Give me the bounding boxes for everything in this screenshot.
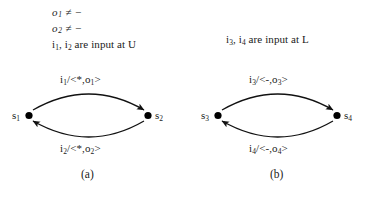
edge-a-bottom-output: <*,o <box>70 142 90 154</box>
edge-b-bottom-output: <-,o <box>259 142 278 154</box>
node-s2-subscript: 2 <box>159 114 163 123</box>
graph-layer <box>0 0 371 198</box>
node-s4-subscript: 4 <box>348 114 352 123</box>
edge-b-top-output-close: > <box>282 73 288 85</box>
caption-b: (b) <box>270 168 283 180</box>
node-s1-subscript: 1 <box>16 114 20 123</box>
caption-a: (a) <box>81 168 94 180</box>
diagram-b-edges <box>214 94 340 137</box>
edge-a-bottom-arrow <box>33 121 144 137</box>
node-label-s2: s2 <box>155 109 163 123</box>
diagram-a-edges <box>25 94 151 137</box>
edge-a-top-output: <*,o <box>70 73 90 85</box>
edge-b-top-output: <-,o <box>259 73 278 85</box>
edge-a-top-output-close: > <box>94 73 100 85</box>
edge-b-bottom-output-close: > <box>282 142 288 154</box>
node-s3-subscript: 3 <box>205 114 209 123</box>
node-s3-dot <box>214 112 221 119</box>
edge-b-top-arrow <box>222 94 333 110</box>
node-s4-dot <box>333 112 340 119</box>
edge-label-a-top: i1/<*,o1> <box>60 73 101 87</box>
node-s1-dot <box>25 112 32 119</box>
node-s2-dot <box>144 112 151 119</box>
edge-a-bottom-output-close: > <box>94 142 100 154</box>
edge-b-bottom-arrow <box>222 121 333 137</box>
node-label-s1: s1 <box>12 109 20 123</box>
edge-label-b-top: i3/<-,o3> <box>249 73 288 87</box>
node-label-s3: s3 <box>201 109 209 123</box>
edge-label-a-bottom: i2/<*,o2> <box>60 142 101 156</box>
edge-a-top-arrow <box>33 94 144 110</box>
figure-root: o1 ≠ − o2 ≠ − i1, i2 are input at U i3, … <box>0 0 371 198</box>
edge-label-b-bottom: i4/<-,o4> <box>249 142 288 156</box>
node-label-s4: s4 <box>344 109 352 123</box>
